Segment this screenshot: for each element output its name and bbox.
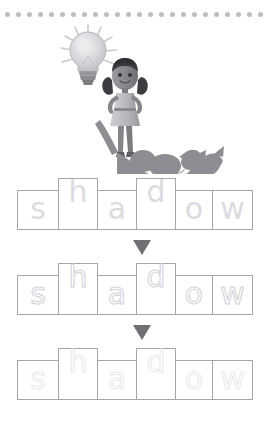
letter-box-w[interactable]: w <box>212 190 253 230</box>
rule-dot <box>126 12 131 17</box>
worksheet-page: shadow shadow shadow <box>0 0 275 447</box>
letter-box-h[interactable]: h <box>58 348 98 400</box>
letter-box-o[interactable]: o <box>175 275 213 315</box>
rule-dot <box>104 12 109 17</box>
rule-dot <box>38 12 43 17</box>
letter-box-d[interactable]: d <box>136 263 176 315</box>
letter-box-h[interactable]: h <box>58 263 98 315</box>
rule-dot <box>16 12 21 17</box>
rule-dot <box>115 12 120 17</box>
illustration <box>0 24 275 174</box>
letter-glyph-w: w <box>213 189 252 229</box>
rule-dot <box>214 12 219 17</box>
letter-box-o[interactable]: o <box>175 190 213 230</box>
letter-box-a[interactable]: a <box>97 190 137 230</box>
letter-glyph-s: s <box>18 359 58 399</box>
rule-dot <box>49 12 54 17</box>
rule-dot <box>258 12 263 17</box>
dotted-rule <box>0 9 275 19</box>
word-shape-row-3: shadow <box>17 348 258 400</box>
letter-box-s[interactable]: s <box>17 275 59 315</box>
letter-box-a[interactable]: a <box>97 360 137 400</box>
rule-dot <box>181 12 186 17</box>
word-shape-row-1: shadow <box>17 178 258 230</box>
letter-glyph-h: h <box>59 345 97 399</box>
rule-dot <box>236 12 241 17</box>
rule-dot <box>27 12 32 17</box>
letter-glyph-h: h <box>59 260 97 314</box>
down-arrow-2 <box>133 325 151 341</box>
dog-shadow <box>95 120 224 174</box>
letter-glyph-o: o <box>176 359 212 399</box>
down-arrow-1 <box>133 240 151 256</box>
letter-box-h[interactable]: h <box>58 178 98 230</box>
letter-glyph-a: a <box>98 189 136 229</box>
rule-dot <box>203 12 208 17</box>
letter-box-o[interactable]: o <box>175 360 213 400</box>
letter-glyph-o: o <box>176 274 212 314</box>
letter-box-s[interactable]: s <box>17 190 59 230</box>
letter-box-w[interactable]: w <box>212 360 253 400</box>
rule-dot <box>148 12 153 17</box>
rule-dot <box>225 12 230 17</box>
rule-dot <box>247 12 252 17</box>
letter-glyph-w: w <box>213 274 252 314</box>
rule-dot <box>170 12 175 17</box>
letter-glyph-d: d <box>137 345 175 399</box>
letter-box-d[interactable]: d <box>136 348 176 400</box>
letter-glyph-a: a <box>98 359 136 399</box>
rule-dot <box>93 12 98 17</box>
rule-dot <box>192 12 197 17</box>
letter-box-s[interactable]: s <box>17 360 59 400</box>
rule-dot <box>159 12 164 17</box>
letter-box-a[interactable]: a <box>97 275 137 315</box>
rule-dot <box>137 12 142 17</box>
rule-dot <box>82 12 87 17</box>
letter-glyph-d: d <box>137 260 175 314</box>
letter-glyph-s: s <box>18 274 58 314</box>
letter-box-w[interactable]: w <box>212 275 253 315</box>
letter-box-d[interactable]: d <box>136 178 176 230</box>
lightbulb-icon <box>70 32 106 85</box>
rule-dot <box>71 12 76 17</box>
rule-dot <box>5 12 10 17</box>
letter-glyph-s: s <box>18 189 58 229</box>
letter-glyph-a: a <box>98 274 136 314</box>
letter-glyph-d: d <box>137 175 175 229</box>
word-shape-row-2: shadow <box>17 263 258 315</box>
letter-glyph-o: o <box>176 189 212 229</box>
letter-glyph-w: w <box>213 359 252 399</box>
letter-glyph-h: h <box>59 175 97 229</box>
rule-dot <box>60 12 65 17</box>
